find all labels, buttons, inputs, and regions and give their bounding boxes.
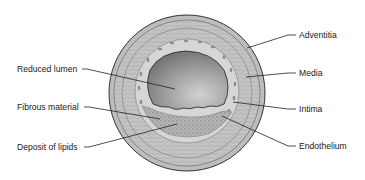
label-intima: Intima (299, 104, 322, 114)
artery-cross-section (0, 0, 365, 180)
label-endothelium: Endothelium (299, 141, 347, 151)
label-deposit-of-lipids: Deposit of lipids (17, 142, 78, 152)
label-reduced-lumen: Reduced lumen (17, 64, 77, 74)
label-adventitia: Adventitia (299, 30, 337, 40)
label-fibrous-material: Fibrous material (17, 102, 79, 112)
artery-diagram: Reduced lumen Fibrous material Deposit o… (0, 0, 365, 180)
label-media: Media (299, 68, 322, 78)
